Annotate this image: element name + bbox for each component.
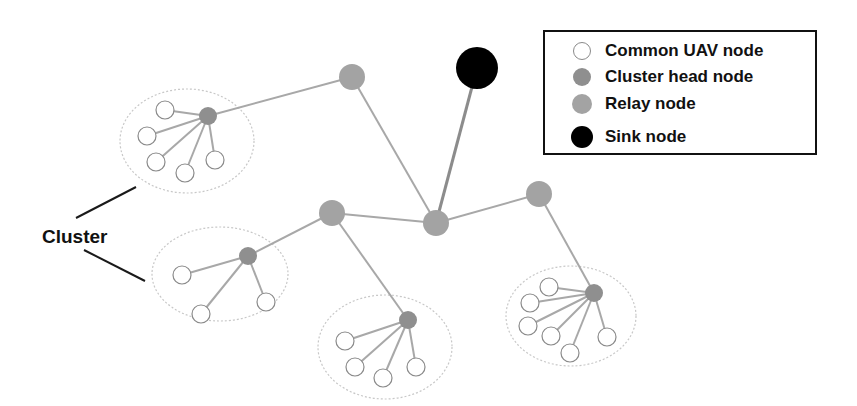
relay-node — [339, 64, 365, 90]
link — [436, 68, 477, 223]
common-uav-node — [519, 317, 537, 335]
cluster-head-node-icon — [573, 68, 591, 86]
link — [332, 213, 408, 320]
member-link — [147, 116, 208, 136]
cluster-head-node — [199, 107, 217, 125]
cluster-head-node — [239, 247, 257, 265]
link — [248, 213, 332, 256]
common-uav-node — [336, 332, 354, 350]
common-uav-node — [176, 164, 194, 182]
common-uav-node — [407, 358, 425, 376]
relay-node — [526, 181, 552, 207]
cluster-pointer-line — [76, 187, 136, 218]
common-uav-node — [540, 278, 558, 296]
cluster-label: Cluster — [42, 226, 107, 248]
common-uav-node — [542, 327, 560, 345]
legend: Common UAV node Cluster head node Relay … — [543, 30, 817, 155]
relay-node — [319, 200, 345, 226]
common-uav-node — [138, 127, 156, 145]
relay-node-icon — [572, 94, 592, 114]
common-uav-node — [206, 151, 224, 169]
common-uav-node — [561, 344, 579, 362]
common-uav-node — [521, 294, 539, 312]
member-link — [345, 320, 408, 341]
relay-node — [423, 210, 449, 236]
member-link — [156, 116, 208, 162]
common-uav-node-icon — [573, 42, 591, 60]
cluster-head-node — [585, 284, 603, 302]
common-uav-node — [346, 358, 364, 376]
legend-label: Sink node — [605, 125, 686, 149]
member-link — [182, 256, 248, 275]
common-uav-node — [192, 305, 210, 323]
cluster-pointer-line — [84, 250, 145, 281]
legend-label: Common UAV node — [605, 39, 763, 63]
sink-node-icon — [571, 126, 593, 148]
legend-label: Relay node — [605, 92, 696, 116]
member-link — [201, 256, 248, 314]
link — [208, 77, 352, 116]
common-uav-node — [156, 101, 174, 119]
common-uav-node — [257, 293, 275, 311]
sink-node — [456, 47, 498, 89]
legend-label: Cluster head node — [605, 65, 753, 89]
common-uav-node — [147, 153, 165, 171]
link — [352, 77, 436, 223]
link — [332, 213, 436, 223]
common-uav-node — [598, 328, 616, 346]
member-link — [570, 293, 594, 353]
common-uav-node — [374, 369, 392, 387]
common-uav-node — [173, 266, 191, 284]
link — [436, 194, 539, 223]
cluster-head-node — [399, 311, 417, 329]
member-link — [355, 320, 408, 367]
